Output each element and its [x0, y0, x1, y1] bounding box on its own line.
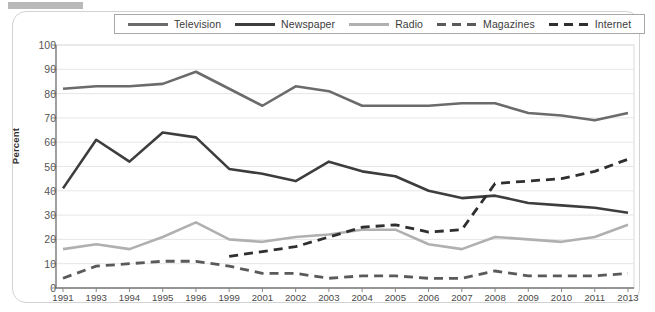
- x-tick-label: 1996: [185, 292, 206, 303]
- legend-label: Internet: [595, 18, 631, 30]
- x-tick-label: 2004: [351, 292, 372, 303]
- x-tick-label: 2005: [385, 292, 406, 303]
- x-tick-label: 2007: [451, 292, 472, 303]
- x-tick-label: 2006: [418, 292, 439, 303]
- y-tick-label: 50: [26, 161, 56, 173]
- x-tick-label: 2002: [285, 292, 306, 303]
- x-tick-label: 2001: [252, 292, 273, 303]
- x-axis-ticks: 1991199319941995199619992001200220032004…: [0, 290, 655, 308]
- x-tick-label: 2008: [484, 292, 505, 303]
- chart-screenshot: TelevisionNewspaperRadioMagazinesInterne…: [0, 0, 655, 312]
- chart-legend: TelevisionNewspaperRadioMagazinesInterne…: [114, 14, 645, 34]
- legend-item-magazines: Magazines: [437, 18, 535, 30]
- legend-label: Magazines: [483, 18, 535, 30]
- x-tick-label: 1991: [52, 292, 73, 303]
- y-tick-label: 100: [26, 39, 56, 51]
- y-tick-label: 20: [26, 233, 56, 245]
- y-tick-label: 40: [26, 185, 56, 197]
- x-tick-label: 1993: [86, 292, 107, 303]
- x-tick-label: 2003: [318, 292, 339, 303]
- y-tick-label: 30: [26, 209, 56, 221]
- legend-item-radio: Radio: [349, 18, 423, 30]
- y-axis-ticks: 0102030405060708090100: [24, 0, 56, 312]
- x-tick-label: 2011: [584, 292, 605, 303]
- y-tick-label: 70: [26, 112, 56, 124]
- x-tick-label: 2013: [617, 292, 638, 303]
- y-axis-label: Percent: [10, 128, 21, 164]
- x-tick-label: 2009: [518, 292, 539, 303]
- y-tick-label: 90: [26, 63, 56, 75]
- legend-label: Television: [174, 18, 221, 30]
- legend-item-television: Television: [128, 18, 221, 30]
- x-tick-label: 1995: [152, 292, 173, 303]
- y-tick-label: 10: [26, 258, 56, 270]
- legend-label: Newspaper: [281, 18, 335, 30]
- x-tick-label: 1999: [219, 292, 240, 303]
- legend-label: Radio: [395, 18, 423, 30]
- plot-area: Percent 0102030405060708090100 199119931…: [0, 0, 655, 312]
- legend-item-newspaper: Newspaper: [235, 18, 335, 30]
- legend-item-internet: Internet: [549, 18, 631, 30]
- y-tick-label: 60: [26, 136, 56, 148]
- x-tick-label: 2010: [551, 292, 572, 303]
- chart-canvas: [0, 0, 655, 312]
- x-tick-label: 1994: [119, 292, 140, 303]
- y-tick-label: 80: [26, 88, 56, 100]
